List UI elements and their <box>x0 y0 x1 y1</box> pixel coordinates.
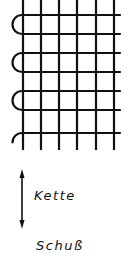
weave-diagram <box>0 0 130 259</box>
weft-loop <box>13 15 120 34</box>
weft-loop <box>13 91 121 110</box>
weft-threads <box>13 15 121 143</box>
warp-direction-arrow <box>20 169 25 229</box>
weft-loop <box>13 53 121 72</box>
arrow-down-icon <box>20 220 25 229</box>
warp-label: Kette <box>34 188 76 203</box>
weft-thread-end <box>13 133 121 143</box>
weft-label: Schuß <box>36 238 84 253</box>
arrow-up-icon <box>20 169 25 178</box>
warp-threads <box>23 0 114 150</box>
